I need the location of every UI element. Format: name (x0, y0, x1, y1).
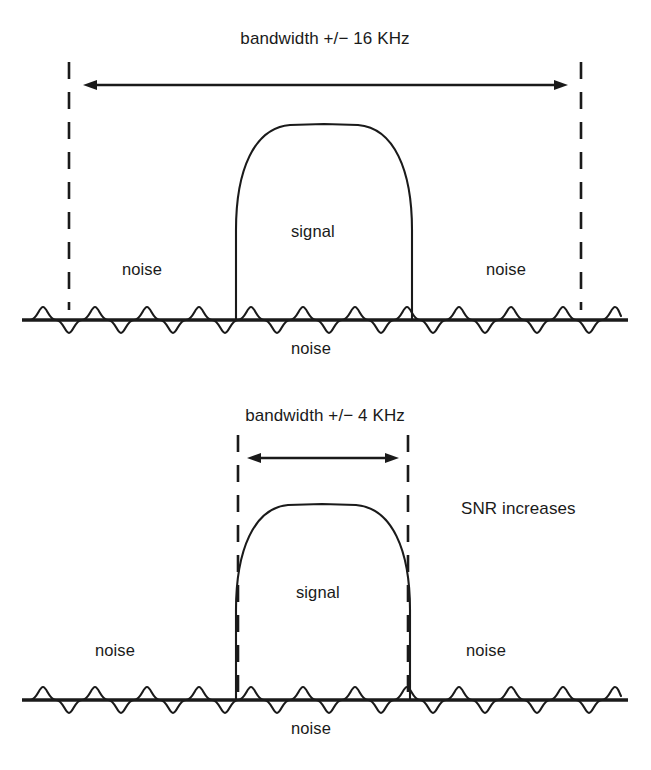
noise-label-bottom-wide: noise (291, 340, 331, 357)
bandwidth-arrow-head-left (83, 80, 97, 90)
panel-narrow-bandwidth: bandwidth +/− 4 KHz SNR increases noise … (0, 385, 651, 770)
noise-label-bottom-narrow: noise (291, 720, 331, 737)
signal-curve-narrow (236, 504, 410, 700)
noise-label-right-narrow: noise (466, 642, 506, 659)
bandwidth-snr-diagram: bandwidth +/− 16 KHz noise signal noise … (0, 0, 651, 770)
bandwidth-label-wide: bandwidth +/− 16 KHz (240, 30, 409, 47)
bandwidth-arrow-head-right (385, 453, 399, 463)
bandwidth-label-narrow: bandwidth +/− 4 KHz (245, 407, 405, 424)
signal-label-narrow: signal (296, 584, 340, 601)
signal-label-wide: signal (291, 223, 335, 240)
bandwidth-arrow-narrow (247, 453, 399, 463)
snr-note-label: SNR increases (461, 500, 576, 517)
wide-bandwidth-plot (0, 0, 651, 385)
bandwidth-arrow-head-right (554, 80, 568, 90)
narrow-bandwidth-plot (0, 385, 651, 770)
bandwidth-arrow-wide (83, 80, 568, 90)
noise-label-left-narrow: noise (95, 642, 135, 659)
panel-wide-bandwidth: bandwidth +/− 16 KHz noise signal noise … (0, 0, 651, 385)
noise-label-right-wide: noise (486, 261, 526, 278)
bandwidth-arrow-head-left (247, 453, 261, 463)
noise-label-left-wide: noise (122, 261, 162, 278)
